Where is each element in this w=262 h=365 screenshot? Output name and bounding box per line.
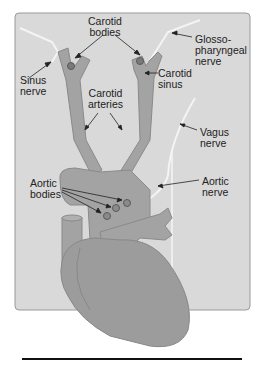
right-carotid-body (137, 58, 144, 65)
label-carotid-arteries: Carotid arteries (88, 88, 123, 110)
label-carotid-bodies: Carotid bodies (88, 16, 122, 38)
label-glossopharyngeal-nerve: Glosso- pharyngeal nerve (195, 34, 247, 67)
label-aortic-bodies: Aortic bodies (30, 178, 61, 200)
aortic-body-1 (124, 200, 131, 207)
label-aortic-nerve: Aortic nerve (202, 176, 229, 198)
aortic-body-3 (104, 213, 111, 220)
horizontal-rule (22, 358, 242, 360)
label-vagus-nerve: Vagus nerve (200, 127, 229, 149)
left-carotid-body (68, 63, 75, 70)
label-carotid-sinus: Carotid sinus (158, 68, 192, 90)
diagram-figure: Carotid bodies Sinus nerve Glosso- phary… (0, 0, 262, 365)
aortic-body-2 (113, 205, 120, 212)
label-sinus-nerve: Sinus nerve (20, 75, 46, 97)
